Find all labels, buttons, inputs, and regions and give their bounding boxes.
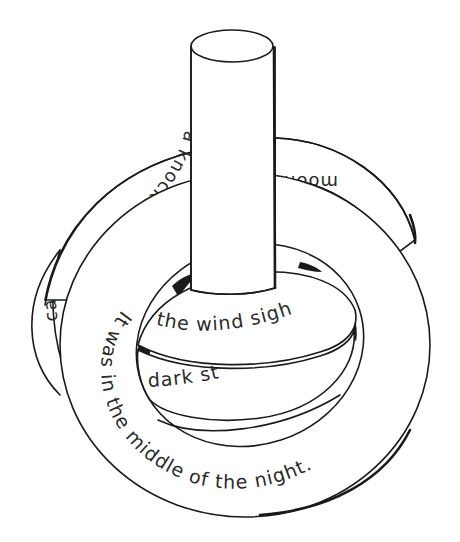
post-cylinder [191,30,275,294]
back-ring-edge-text: ca [38,298,61,323]
ring-post-illustration: a knocke moon w ca It was in the middle … [0,0,460,542]
post-top [191,30,273,62]
illustration-svg: a knocke moon w ca It was in the middle … [0,0,460,542]
